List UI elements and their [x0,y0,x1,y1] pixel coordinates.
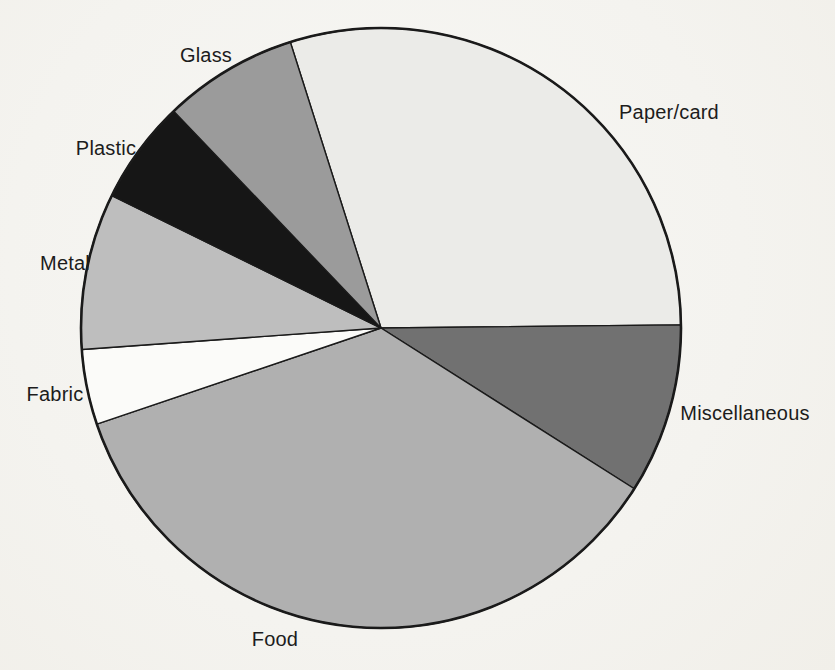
slice-label-miscellaneous: Miscellaneous [680,403,809,423]
slice-label-glass: Glass [180,45,232,65]
slice-label-metal: Metal [40,253,90,273]
slice-label-fabric: Fabric [27,384,84,404]
slice-label-food: Food [252,629,298,649]
waste-composition-pie-chart: Paper/card Miscellaneous Food Fabric Met… [0,0,835,670]
slice-label-plastic: Plastic [76,138,136,158]
slice-label-paper-card: Paper/card [619,102,719,122]
scanned-book-page: Paper/card Miscellaneous Food Fabric Met… [0,0,835,670]
